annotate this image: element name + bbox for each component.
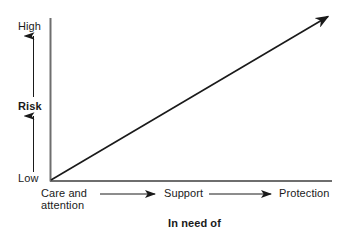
x-axis-stage-support: Support xyxy=(164,187,203,199)
trend-arrow-diagonal xyxy=(51,17,328,181)
x-axis-stage-protection: Protection xyxy=(279,187,330,199)
y-axis-top-label: High xyxy=(18,20,41,32)
y-axis-title: Risk xyxy=(18,100,42,112)
y-axis-bottom-label: Low xyxy=(18,172,38,184)
x-axis-stage-care-and-attention: Care and attention xyxy=(41,187,87,211)
risk-need-diagram: High Risk Low Care and attention Support… xyxy=(0,0,348,242)
x-axis-stage-care-line2: attention xyxy=(41,199,87,211)
x-axis-stage-care-line1: Care and xyxy=(41,187,87,199)
x-axis-title: In need of xyxy=(168,217,221,229)
